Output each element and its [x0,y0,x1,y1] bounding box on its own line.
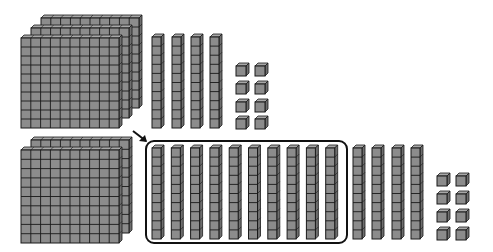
bottom-circled-tens-rod [191,145,203,239]
bottom-circled-tens-rod [306,145,318,239]
bottom-extra-tens-rod [392,145,404,239]
top-tens-rod [210,34,222,128]
bottom-ones-cubes [437,173,469,240]
top-ones-cubes [236,63,268,129]
bottom-circled-tens-rod [326,145,338,239]
arrow-icon [133,131,147,142]
bottom-circled-tens-rod [249,145,261,239]
bottom-extra-tens-rod [372,145,384,239]
top-tens-rod [152,34,164,128]
bottom-circled-tens-rod [171,145,183,239]
top-hundreds-flats [21,15,142,128]
bottom-extra-tens-rod [411,145,423,239]
bottom-circled-tens-rod [287,145,299,239]
bottom-extra-tens-rod [353,145,365,239]
bottom-circled-tens-rod [210,145,222,239]
base-ten-blocks-diagram [0,0,493,252]
bottom-hundreds-flats [21,137,132,243]
bottom-circled-tens-rod [268,145,280,239]
top-tens-rod [191,34,203,128]
top-tens-rod [172,34,184,128]
bottom-circled-tens-rod [229,145,241,239]
bottom-circled-tens-rod [152,145,164,239]
